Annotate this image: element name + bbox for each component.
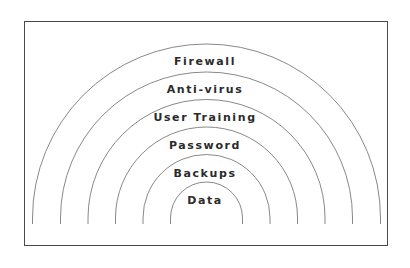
concentric-arcs bbox=[0, 0, 410, 268]
layer-label-data: Data bbox=[0, 194, 410, 208]
layer-label-backups: Backups bbox=[0, 167, 410, 181]
layer-label-anti-virus: Anti-virus bbox=[0, 83, 410, 97]
arc-backups bbox=[143, 155, 270, 225]
layer-label-password: Password bbox=[0, 139, 410, 153]
layer-label-firewall: Firewall bbox=[0, 55, 410, 69]
layer-label-user-training: User Training bbox=[0, 111, 410, 125]
